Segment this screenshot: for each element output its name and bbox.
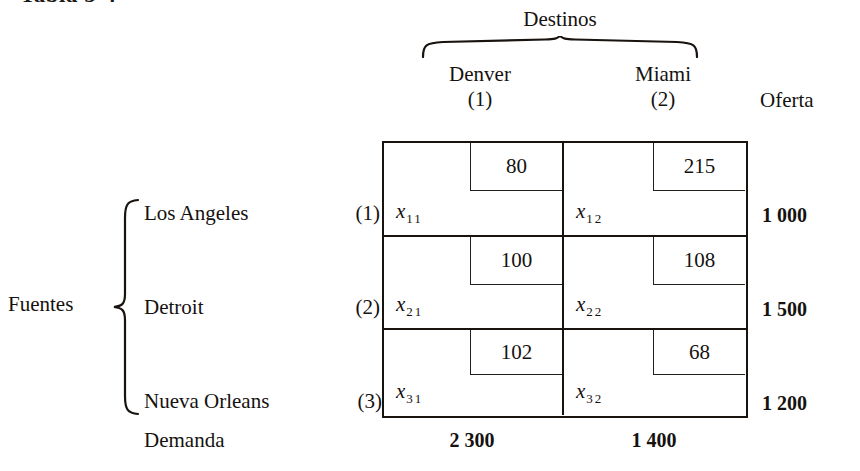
variable-label-2-2: x22 (576, 293, 603, 323)
matrix-cell-3-2: 68 x32 (564, 330, 745, 415)
transportation-tableau-figure: Tabla 5-4 Destinos Denver (1) Miami (2) … (0, 0, 860, 471)
column-header-denver-name: Denver (449, 62, 511, 86)
cost-matrix-table: 80 x11 215 x12 100 x21 108 x22 102 x31 (382, 141, 748, 418)
supply-value-row-3: 1 200 (762, 392, 854, 414)
variable-label-1-2: x12 (576, 200, 603, 230)
left-brace-icon (112, 198, 140, 416)
table-row: 100 x21 108 x22 (384, 237, 746, 330)
table-row: 102 x31 68 x32 (384, 330, 746, 415)
column-group-label: Destinos (425, 7, 695, 31)
row-header-nueva-orleans: Nueva Orleans (3) (144, 389, 380, 414)
variable-label-2-1: x21 (396, 293, 423, 323)
row-group-label: Fuentes (8, 292, 73, 316)
matrix-cell-3-1: 102 x31 (384, 330, 564, 415)
supply-value-row-1: 1 000 (762, 204, 854, 226)
supply-value-row-2: 1 500 (762, 298, 854, 320)
demand-row-label: Demanda (144, 428, 224, 452)
top-brace-icon (421, 36, 699, 58)
table-row: 80 x11 215 x12 (384, 143, 746, 237)
demand-value-denver: 2 300 (382, 428, 562, 452)
figure-title-text: Tabla 5-4 (20, 0, 220, 8)
row-header-detroit-index: (2) (356, 295, 381, 320)
cost-value-1-2: 215 (653, 143, 745, 191)
matrix-cell-2-2: 108 x22 (564, 237, 745, 328)
cost-value-1-1: 80 (470, 143, 562, 191)
cost-value-2-1: 100 (470, 237, 562, 285)
figure-title: Tabla 5-4 (20, 0, 220, 8)
row-header-los-angeles-name: Los Angeles (144, 201, 248, 226)
variable-label-3-2: x32 (576, 380, 603, 410)
demand-value-miami: 1 400 (564, 428, 744, 452)
matrix-cell-1-2: 215 x12 (564, 143, 745, 235)
matrix-cell-1-1: 80 x11 (384, 143, 564, 235)
row-header-detroit: Detroit (2) (144, 295, 380, 320)
column-header-miami-name: Miami (635, 62, 691, 86)
row-header-nueva-orleans-index: (3) (358, 389, 383, 414)
column-header-miami-index: (2) (583, 87, 743, 112)
variable-label-3-1: x31 (396, 380, 423, 410)
column-header-denver-index: (1) (400, 87, 560, 112)
supply-column-header: Oferta (760, 88, 814, 113)
row-header-los-angeles: Los Angeles (1) (144, 201, 380, 226)
cost-value-3-2: 68 (653, 330, 745, 375)
column-header-denver: Denver (1) (400, 62, 560, 112)
cost-value-2-2: 108 (653, 237, 745, 285)
row-header-los-angeles-index: (1) (356, 201, 381, 226)
row-header-detroit-name: Detroit (144, 295, 203, 320)
row-header-nueva-orleans-name: Nueva Orleans (144, 389, 269, 414)
variable-label-1-1: x11 (396, 200, 423, 230)
matrix-cell-2-1: 100 x21 (384, 237, 564, 328)
column-header-miami: Miami (2) (583, 62, 743, 112)
cost-value-3-1: 102 (470, 330, 562, 375)
